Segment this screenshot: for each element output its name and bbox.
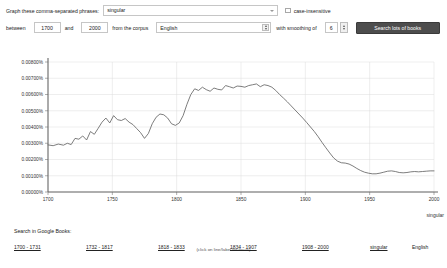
smoothing-stepper[interactable] [340, 22, 348, 33]
y-axis-tick-label: 0.00400% [21, 125, 43, 130]
end-year-input[interactable] [81, 22, 108, 33]
phrase-row: Graph these comma-separated phrases: cas… [6, 4, 441, 17]
x-axis-tick-label: 1850 [236, 197, 247, 202]
search-button[interactable]: Search lots of books [356, 22, 440, 34]
y-axis-tick-label: 0.00700% [21, 76, 43, 81]
books-range-link-4[interactable]: 1834 - 1907 [230, 244, 302, 250]
y-axis-tick-label: 0.00300% [21, 141, 43, 146]
smoothing-input[interactable] [325, 22, 338, 33]
y-axis-tick-label: 0.00500% [21, 109, 43, 114]
y-axis-tick-label: 0.00800% [21, 60, 43, 65]
y-axis-tick-label: 0.00600% [21, 92, 43, 97]
books-range-link-2[interactable]: 1732 - 1817 [86, 244, 158, 250]
books-corpus-label: English [412, 244, 428, 250]
and-label: and [65, 25, 74, 31]
corpus-select-arrows[interactable] [262, 24, 269, 31]
phrase-combobox[interactable] [103, 5, 278, 16]
phrase-label: Graph these comma-separated phrases: [6, 8, 99, 14]
x-axis-tick-label: 1900 [300, 197, 311, 202]
corpus-select[interactable]: English [156, 22, 271, 33]
between-label: between [6, 25, 26, 31]
x-axis-tick-label: 1950 [364, 197, 375, 202]
phrase-input[interactable] [104, 6, 277, 15]
series-label-singular[interactable]: singular [426, 212, 444, 218]
case-insensitive-checkbox[interactable] [285, 8, 291, 14]
query-form: Graph these comma-separated phrases: cas… [0, 0, 447, 34]
x-axis-tick-label: 1700 [43, 197, 54, 202]
books-range-link-3[interactable]: 1818 - 1833 [158, 244, 230, 250]
google-books-search-section: Search in Google Books: 1700 - 1731 1732… [0, 228, 447, 250]
smoothing-label: with smoothing of [276, 25, 316, 31]
corpus-label: from the corpus [112, 25, 148, 31]
books-range-link-5[interactable]: 1908 - 2000 [302, 244, 370, 250]
y-axis-tick-label: 0.00100% [21, 174, 43, 179]
footer-title: Search in Google Books: [14, 228, 433, 234]
footer-links: 1700 - 1731 1732 - 1817 1818 - 1833 1834… [14, 244, 433, 250]
x-axis-tick-label: 1750 [107, 197, 118, 202]
range-row: between and from the corpus English with… [6, 21, 441, 34]
y-axis-tick-label: 0.00200% [21, 157, 43, 162]
ngram-chart[interactable]: 0.00000%0.00100%0.00200%0.00300%0.00400%… [0, 38, 447, 213]
books-range-link-1[interactable]: 1700 - 1731 [14, 244, 86, 250]
chevron-down-icon[interactable] [343, 28, 345, 30]
x-axis-tick-label: 2000 [429, 197, 440, 202]
x-axis-tick-label: 1800 [171, 197, 182, 202]
chart-canvas[interactable]: 0.00000%0.00100%0.00200%0.00300%0.00400%… [0, 38, 447, 213]
chevron-down-icon [265, 28, 267, 30]
books-phrase-link[interactable]: singular [370, 244, 412, 250]
corpus-selected-value: English [157, 25, 177, 31]
case-insensitive-group[interactable]: case-insensitive [285, 8, 330, 14]
y-axis-tick-label: 0.00000% [21, 190, 43, 195]
start-year-input[interactable] [34, 22, 61, 33]
case-insensitive-label: case-insensitive [294, 8, 331, 14]
chevron-down-icon[interactable] [270, 10, 274, 12]
